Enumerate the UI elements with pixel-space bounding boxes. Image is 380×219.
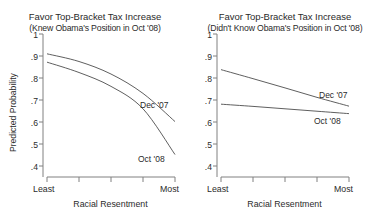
series-line-oct08-right xyxy=(221,104,349,113)
x-tick-label-least-right: Least xyxy=(207,184,229,194)
x-tick-marks-right xyxy=(221,177,349,182)
series-annotation-dec07-right: Dec '07 xyxy=(319,90,348,100)
series-annotation-oct08-left: Oct '08 xyxy=(138,154,165,164)
x-axis-label-right: Racial Resentment xyxy=(217,199,352,209)
x-tick-label-most-right: Most xyxy=(334,184,353,194)
figure-two-panel-line-chart: Favor Top-Bracket Tax Increase (Knew Oba… xyxy=(0,0,380,219)
series-annotation-oct08-right: Oct '08 xyxy=(314,116,341,126)
panel-knew-obamas-position: Favor Top-Bracket Tax Increase (Knew Oba… xyxy=(0,0,190,219)
series-line-dec07-right xyxy=(221,70,349,107)
x-tick-label-most-left: Most xyxy=(160,184,179,194)
y-tick-marks-left xyxy=(39,34,43,166)
x-tick-marks-left xyxy=(47,177,175,182)
series-line-dec07-left xyxy=(47,54,175,122)
x-axis-label-left: Racial Resentment xyxy=(43,199,178,209)
y-tick-marks-right xyxy=(213,34,217,166)
x-tick-label-least-left: Least xyxy=(33,184,55,194)
series-annotation-dec07-left: Dec '07 xyxy=(140,100,169,110)
panel-didnt-know-obamas-position: Favor Top-Bracket Tax Increase (Didn't K… xyxy=(190,0,380,219)
